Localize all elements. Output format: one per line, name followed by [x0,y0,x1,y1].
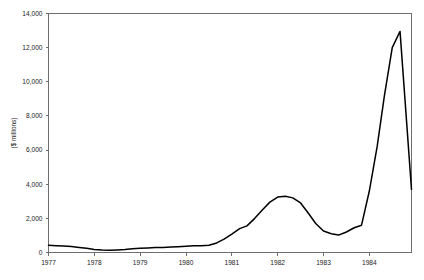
x-tick-label: 1984 [362,259,377,266]
y-axis-title: ($ millions) [10,118,18,149]
y-tick-label: 8,000 [26,112,43,119]
y-tick-label: 0 [39,249,43,256]
y-tick-label: 10,000 [22,78,43,85]
series-line [49,31,412,250]
x-axis-tick-labels: 19771978197919801981198219831984 [41,259,377,266]
x-tick-label: 1979 [133,259,148,266]
x-tick-label: 1982 [270,259,285,266]
x-tick-label: 1980 [179,259,194,266]
y-axis-tick-labels: 02,0004,0006,0008,00010,00012,00014,000 [22,10,43,256]
chart-canvas: 02,0004,0006,0008,00010,00012,00014,000 … [0,0,424,280]
y-tick-label: 2,000 [26,215,43,222]
x-tick-label: 1983 [316,259,331,266]
line-chart-figure: 02,0004,0006,0008,00010,00012,00014,000 … [0,0,424,280]
x-tick-label: 1978 [87,259,102,266]
plot-frame [49,14,412,253]
data-series-group [49,31,412,250]
y-tick-label: 14,000 [22,10,43,17]
y-tick-label: 4,000 [26,181,43,188]
svg-text:($ millions): ($ millions) [10,118,18,149]
y-tick-label: 12,000 [22,44,43,51]
x-tick-label: 1981 [224,259,239,266]
x-tick-label: 1977 [41,259,56,266]
y-tick-label: 6,000 [26,146,43,153]
